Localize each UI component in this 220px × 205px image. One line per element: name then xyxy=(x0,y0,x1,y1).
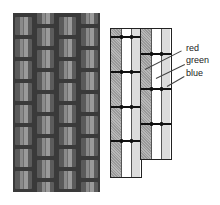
green-stripe xyxy=(121,29,131,177)
red-stripe xyxy=(141,29,151,159)
green-stripe xyxy=(151,29,161,159)
pixel-schematic: red green blue xyxy=(0,0,220,205)
blue-label: blue xyxy=(186,69,203,78)
red-label: red xyxy=(186,44,199,53)
blue-stripe xyxy=(161,29,170,159)
blue-stripe xyxy=(131,29,140,177)
triad-column-right xyxy=(140,28,172,160)
triad-column-left xyxy=(110,28,142,178)
green-label: green xyxy=(186,56,209,65)
red-stripe xyxy=(111,29,121,177)
